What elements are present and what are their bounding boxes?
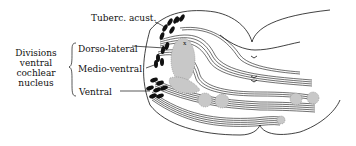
brace: [69, 43, 76, 96]
label-medio-ventral: Medio-ventral: [78, 64, 142, 74]
label-ventral: Ventral: [79, 87, 112, 97]
group-label-line-2: ventral: [4, 58, 68, 68]
group-label-line-3: cochlear: [4, 68, 68, 78]
label-dorso-lateral: Dorso-lateral: [78, 44, 138, 54]
diagram-canvas: Tuberc. acust. Dorso-lateral Medio-ventr…: [0, 0, 356, 146]
group-label-line-1: Divisions: [4, 48, 68, 58]
x-marker: x: [183, 38, 186, 48]
group-label-line-4: nucleus: [4, 78, 68, 88]
label-tuberc-acust: Tuberc. acust.: [91, 13, 156, 23]
leader-tuberc: [155, 22, 166, 28]
group-label-divisions: Divisions ventral cochlear nucleus: [4, 48, 68, 88]
